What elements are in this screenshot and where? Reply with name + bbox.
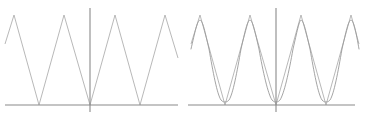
triangle-wave-line	[5, 15, 178, 105]
smooth-approximation-curve	[191, 20, 359, 102]
waveform-figure	[0, 0, 367, 119]
triangle-with-approximation-panel	[183, 0, 367, 119]
triangle-wave-plot	[0, 0, 183, 119]
triangle-with-approximation-plot	[183, 0, 367, 119]
triangle-wave-panel	[0, 0, 183, 119]
triangle-wave-line	[191, 15, 359, 105]
